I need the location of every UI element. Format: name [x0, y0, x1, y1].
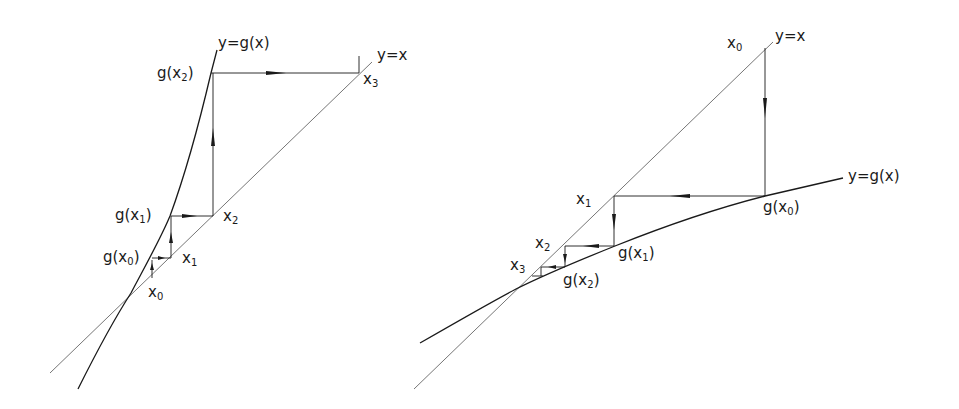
- left-label-x3: x3: [363, 72, 378, 89]
- left-label-x1: x1: [182, 251, 197, 268]
- right-curve-label: y=g(x): [848, 169, 900, 184]
- iteration-diagram: [0, 0, 959, 409]
- right-label-g-x2: g(x2): [563, 273, 600, 290]
- left-label-x0: x0: [148, 285, 163, 302]
- right-label-x2: x2: [535, 236, 550, 253]
- right-label-x3: x3: [510, 258, 525, 275]
- right-identity-line: [414, 42, 773, 389]
- left-label-g-x1: g(x1): [115, 208, 152, 225]
- left-label-g-x2: g(x2): [157, 66, 194, 83]
- right-label-g-x0: g(x0): [763, 200, 800, 217]
- left-label-g-x0: g(x0): [103, 250, 140, 267]
- left-curve-label: y=g(x): [218, 36, 270, 51]
- right-label-g-x1: g(x1): [618, 246, 655, 263]
- right-label-x0: x0: [727, 36, 742, 53]
- left-identity-label: y=x: [377, 48, 407, 63]
- left-identity-line: [50, 62, 372, 373]
- right-identity-label: y=x: [775, 29, 805, 44]
- left-panel: [50, 50, 372, 389]
- left-iteration-path: [150, 56, 359, 278]
- right-label-x1: x1: [576, 192, 591, 209]
- left-label-x2: x2: [223, 209, 238, 226]
